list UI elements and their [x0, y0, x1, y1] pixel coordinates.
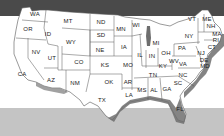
state-label-tn: TN — [149, 72, 157, 78]
state-label-fl: FL — [176, 106, 183, 112]
state-label-ok: OK — [104, 79, 113, 85]
state-label-me: ME — [202, 16, 211, 22]
state-label-wy: WY — [66, 39, 76, 45]
state-label-al: AL — [150, 87, 158, 93]
state-label-ri: RI — [213, 37, 219, 43]
state-label-nc: NC — [178, 72, 187, 78]
state-label-sd: SD — [97, 32, 106, 38]
state-label-mo: MO — [123, 62, 133, 68]
state-label-mn: MN — [116, 26, 126, 32]
lake-michigan — [146, 26, 151, 46]
state-label-wi: WI — [132, 22, 140, 28]
state-label-az: AZ — [47, 77, 55, 83]
state-label-ms: MS — [137, 87, 146, 93]
state-label-il: IL — [137, 52, 142, 58]
state-label-mi: MI — [152, 40, 159, 46]
state-label-in: IN — [149, 53, 155, 59]
state-label-ky: KY — [159, 63, 167, 69]
state-label-tx: TX — [98, 97, 106, 103]
state-label-ne: NE — [96, 47, 105, 53]
state-label-sc: SC — [174, 80, 183, 86]
state-label-id: ID — [45, 31, 51, 37]
state-label-va: VA — [179, 61, 187, 67]
state-label-nj: NJ — [197, 50, 205, 56]
us-land — [14, 7, 222, 122]
state-label-la: LA — [125, 92, 133, 98]
state-label-co: CO — [74, 59, 83, 65]
state-label-wa: WA — [30, 11, 40, 17]
state-label-pa: PA — [178, 45, 186, 51]
state-label-ct: CT — [208, 44, 216, 50]
state-label-or: OR — [23, 26, 32, 32]
state-label-nh: NH — [206, 23, 215, 29]
state-label-nv: NV — [32, 49, 41, 55]
state-label-ga: GA — [162, 86, 171, 92]
state-label-nd: ND — [96, 19, 105, 25]
state-label-ks: KS — [101, 62, 109, 68]
state-label-mt: MT — [63, 18, 72, 24]
state-label-nm: NM — [70, 80, 80, 86]
state-label-oh: OH — [161, 50, 170, 56]
state-label-vt: VT — [188, 16, 196, 22]
state-label-ut: UT — [48, 55, 56, 61]
state-label-ny: NY — [185, 33, 194, 39]
state-label-ar: AR — [124, 79, 133, 85]
state-label-md: MD — [200, 63, 210, 69]
state-label-wv: WV — [169, 58, 179, 64]
us-map: WAORCANVIDMTWYUTCOAZNMNDSDNEKSOKTXMNIAMO… — [0, 0, 224, 136]
state-label-ca: CA — [18, 71, 27, 77]
state-label-ia: IA — [121, 44, 127, 50]
